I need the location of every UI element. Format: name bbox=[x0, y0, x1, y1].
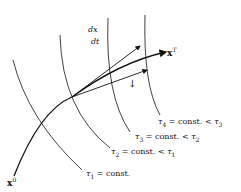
tau2-level-curve bbox=[60, 35, 110, 148]
tau4-level-curve bbox=[145, 15, 160, 115]
small-arrow-icon: ↓ bbox=[128, 79, 136, 89]
xT-label: xT bbox=[167, 47, 176, 58]
tau1-label: τ1 = const. bbox=[86, 170, 130, 180]
trajectory-diagram: dx dt xT x0 ↓ τ1 = const. τ2 = const. < … bbox=[0, 0, 241, 192]
tau2-label: τ2 = const. < τ1 bbox=[111, 148, 175, 158]
diagram-lines bbox=[0, 0, 241, 192]
tau3-level-curve bbox=[108, 18, 130, 132]
x0-label: x0 bbox=[7, 177, 16, 188]
tau4-label: τ4 = const. < τ3 bbox=[158, 118, 222, 128]
tangent-arrow bbox=[72, 46, 140, 97]
dt-label: dt bbox=[91, 38, 99, 46]
dx-label: dx bbox=[88, 26, 98, 34]
tau3-label: τ3 = const. < τ2 bbox=[135, 133, 199, 143]
